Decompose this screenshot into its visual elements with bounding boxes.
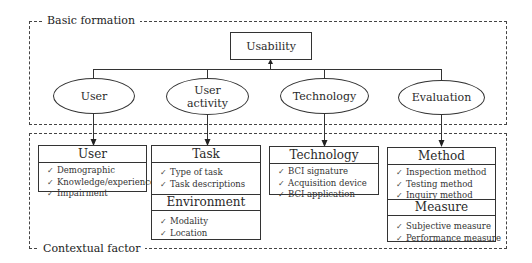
list-item: ✓Location — [160, 228, 260, 240]
list-item: ✓Testing method — [396, 179, 495, 191]
user-card: User ✓Demographic ✓Knowledge/experience … — [38, 145, 147, 192]
user-node: User — [53, 78, 135, 114]
user-card-title: User — [39, 146, 146, 163]
usability-node: Usability — [230, 32, 312, 60]
method-card-title: Method — [388, 148, 495, 165]
check-icon: ✓ — [396, 222, 406, 233]
evaluation-node-label: Evaluation — [412, 91, 472, 104]
user-node-label: User — [81, 90, 108, 103]
method-card: Method ✓Inspection method ✓Testing metho… — [387, 147, 496, 242]
list-item: ✓BCI application — [278, 189, 378, 201]
check-icon: ✓ — [396, 168, 406, 179]
check-icon: ✓ — [278, 167, 288, 178]
technology-node-label: Technology — [293, 90, 356, 103]
list-item: ✓BCI signature — [278, 166, 378, 178]
list-item: ✓Demographic — [47, 165, 146, 177]
list-item: ✓Modality — [160, 216, 260, 228]
technology-card: Technology ✓BCI signature ✓Acquisition d… — [269, 146, 379, 195]
check-icon: ✓ — [278, 190, 288, 201]
list-item: ✓Type of task — [160, 167, 260, 179]
list-item: ✓Acquisition device — [278, 178, 378, 190]
list-item: ✓Task descriptions — [160, 179, 260, 191]
technology-card-title: Technology — [270, 147, 378, 164]
environment-title: Environment — [152, 194, 260, 211]
user-activity-label-line2: activity — [187, 97, 228, 110]
check-icon: ✓ — [47, 189, 57, 200]
task-card: Task ✓Type of task ✓Task descriptions En… — [151, 145, 261, 240]
check-icon: ✓ — [160, 217, 170, 228]
list-item: ✓Impairment — [47, 188, 146, 200]
technology-node: Technology — [280, 78, 369, 114]
user-activity-label-line1: User — [194, 84, 221, 97]
check-icon: ✓ — [278, 179, 288, 190]
list-item: ✓Subjective measure — [396, 221, 495, 233]
check-icon: ✓ — [47, 178, 57, 189]
list-item: ✓Inspection method — [396, 167, 495, 179]
check-icon: ✓ — [47, 166, 57, 177]
measure-title: Measure — [388, 199, 495, 216]
check-icon: ✓ — [160, 168, 170, 179]
list-item: ✓Performance measure — [396, 233, 495, 245]
check-icon: ✓ — [160, 180, 170, 191]
check-icon: ✓ — [396, 180, 406, 191]
check-icon: ✓ — [396, 234, 406, 245]
evaluation-node: Evaluation — [398, 80, 485, 115]
user-activity-node: User activity — [166, 78, 249, 115]
check-icon: ✓ — [160, 229, 170, 240]
check-icon: ✓ — [396, 191, 406, 202]
list-item: ✓Knowledge/experience — [47, 177, 146, 189]
task-card-title: Task — [152, 146, 260, 163]
